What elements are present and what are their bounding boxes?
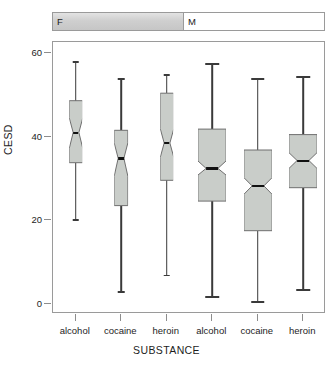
- x-tick-label: cocaine: [240, 325, 273, 336]
- lower-whisker-cap: [118, 291, 125, 293]
- median-line: [164, 142, 170, 144]
- boxplot-m-cocaine[interactable]: [235, 42, 281, 312]
- y-tick-label: 60: [2, 47, 42, 58]
- x-tick-label: alcohol: [196, 325, 226, 336]
- lower-whisker-cap: [205, 296, 219, 298]
- x-tick-label: alcohol: [60, 325, 90, 336]
- y-tick-40: [44, 136, 51, 137]
- x-tick-3: [211, 314, 212, 321]
- panel-strip-cell-f: F: [53, 13, 184, 30]
- x-tick-label: cocaine: [104, 325, 137, 336]
- plot-panel: [52, 41, 325, 313]
- median-line: [297, 160, 309, 162]
- panel-strip: FM: [52, 12, 325, 31]
- boxplot-f-alcohol[interactable]: [53, 42, 99, 312]
- lower-whisker-cap: [163, 275, 170, 277]
- median-line: [206, 167, 218, 169]
- boxplot-f-cocaine[interactable]: [99, 42, 145, 312]
- y-tick-60: [44, 52, 51, 53]
- median-line: [73, 132, 79, 134]
- x-axis-title: SUBSTANCE: [0, 344, 333, 356]
- y-tick-0: [44, 303, 51, 304]
- lower-whisker-cap: [72, 219, 79, 221]
- y-tick-20: [44, 219, 51, 220]
- panel-strip-cell-m: M: [184, 13, 324, 30]
- box-notched: [198, 63, 226, 296]
- lower-whisker-cap: [251, 301, 265, 303]
- x-tick-0: [75, 314, 76, 321]
- median-line: [118, 157, 124, 159]
- y-tick-label: 0: [2, 298, 42, 309]
- boxplot-m-alcohol[interactable]: [190, 42, 236, 312]
- x-tick-2: [166, 314, 167, 321]
- boxplot-m-heroin[interactable]: [281, 42, 326, 312]
- box-notched: [244, 78, 272, 301]
- x-tick-label: heroin: [153, 325, 179, 336]
- x-tick-1: [120, 314, 121, 321]
- x-tick-4: [257, 314, 258, 321]
- median-line: [252, 185, 264, 187]
- plot-area: [53, 42, 324, 312]
- box-notched: [69, 61, 83, 219]
- box-notched: [114, 78, 128, 291]
- boxplot-f-heroin[interactable]: [144, 42, 190, 312]
- y-tick-label: 40: [2, 130, 42, 141]
- x-tick-5: [302, 314, 303, 321]
- panel-strip-label: M: [188, 16, 196, 27]
- panel-strip-label: F: [57, 16, 63, 27]
- box-notched: [160, 74, 174, 275]
- y-tick-label: 20: [2, 214, 42, 225]
- box-notched: [289, 76, 317, 289]
- x-tick-label: heroin: [289, 325, 315, 336]
- lower-whisker-cap: [296, 289, 310, 291]
- boxplot-figure: FM CESD 0204060 alcoholcocaineheroinalco…: [0, 0, 333, 365]
